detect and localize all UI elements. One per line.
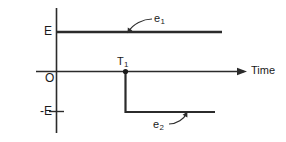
time-axis-label: Time (251, 65, 275, 76)
signal-label-e2-subscript: 2 (159, 123, 164, 132)
signal-label-e1: e1 (154, 13, 165, 26)
origin-label: O (45, 72, 54, 84)
step-time-label: T1 (117, 56, 128, 69)
step-point-marker (123, 69, 128, 74)
signal-label-e2: e2 (153, 119, 164, 132)
signal-trace-e2 (126, 71, 216, 112)
positive-level-label: E (44, 25, 52, 37)
step-time-label-subscript: 1 (124, 60, 129, 69)
time-axis-arrowhead (237, 68, 247, 75)
signal-label-e1-subscript: 1 (160, 17, 165, 26)
step-time-label-base: T (117, 55, 124, 67)
waveform-svg (0, 0, 286, 142)
negative-level-label: -E (40, 105, 52, 117)
leader-line-e1 (129, 19, 153, 32)
waveform-figure: E -E O T1 Time e1 e2 (0, 0, 286, 142)
